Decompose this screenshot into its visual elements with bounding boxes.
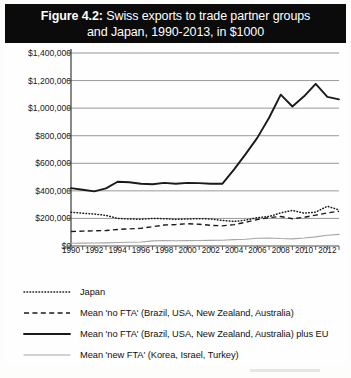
- figure-title-line-1: Figure 4.2: Swiss exports to trade partn…: [41, 8, 311, 24]
- figure-title-bar: Figure 4.2: Swiss exports to trade partn…: [5, 4, 346, 43]
- x-axis-tick-label: 2000: [178, 246, 196, 255]
- x-axis-tick-label: 1992: [85, 246, 103, 255]
- figure-title-line-2: and Japan, 1990-2013, in $1000: [87, 24, 264, 40]
- figure-title-text-1: Swiss exports to trade partner groups: [106, 9, 310, 23]
- legend-line-sample: [23, 349, 71, 361]
- legend-item[interactable]: Mean 'no FTA' (Brazil, USA, New Zealand,…: [5, 324, 328, 344]
- series-line: [71, 84, 339, 192]
- x-axis-tick-label: 2008: [272, 246, 290, 255]
- series-line: [71, 234, 339, 243]
- x-axis-tick-label: 1996: [132, 246, 150, 255]
- plot-area: $0$200,000$400,000$600,000$800,000$1,000…: [5, 43, 346, 273]
- chart-legend: JapanMean 'no FTA' (Brazil, USA, New Zea…: [5, 276, 346, 365]
- x-axis-tick-label: 1998: [155, 246, 173, 255]
- x-axis-labels: 1990199219941996199820002002200420062008…: [5, 246, 346, 262]
- x-axis-tick-label: 2012: [318, 246, 336, 255]
- series-line: [71, 206, 339, 221]
- legend-item[interactable]: Japan: [5, 282, 105, 302]
- legend-item-label: Japan: [80, 287, 105, 297]
- x-axis-tick-label: 2006: [248, 246, 266, 255]
- scan-artifact: [250, 369, 320, 372]
- legend-line-sample: [23, 328, 71, 340]
- x-axis-tick-label: 1994: [108, 246, 126, 255]
- chart-svg: [5, 43, 346, 273]
- figure-container: Figure 4.2: Swiss exports to trade partn…: [0, 0, 351, 378]
- legend-item[interactable]: Mean 'no FTA' (Brazil, USA, New Zealand,…: [5, 303, 294, 323]
- x-axis-tick-label: 1990: [62, 246, 80, 255]
- x-axis-tick-label: 2002: [202, 246, 220, 255]
- legend-item-label: Mean 'no FTA' (Brazil, USA, New Zealand,…: [80, 308, 294, 318]
- legend-item[interactable]: Mean 'new FTA' (Korea, Israel, Turkey): [5, 345, 239, 365]
- axis-lines: [67, 49, 339, 246]
- gridlines: [71, 53, 339, 218]
- x-axis-tick-label: 2004: [225, 246, 243, 255]
- legend-line-sample: [23, 307, 71, 319]
- legend-item-label: Mean 'new FTA' (Korea, Israel, Turkey): [80, 350, 239, 360]
- figure-number: Figure 4.2:: [41, 9, 103, 23]
- legend-item-label: Mean 'no FTA' (Brazil, USA, New Zealand,…: [80, 329, 328, 339]
- x-axis-tick-label: 2010: [295, 246, 313, 255]
- series-line: [71, 211, 339, 231]
- legend-line-sample: [23, 286, 71, 298]
